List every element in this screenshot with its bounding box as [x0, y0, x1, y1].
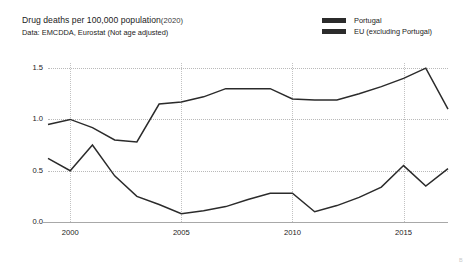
legend-item: Portugal: [322, 15, 432, 26]
x-tick-label: 2005: [151, 228, 211, 237]
y-tick-label: 0.5: [3, 166, 43, 175]
x-axis-line: [43, 222, 448, 223]
legend-item-label: EU (excluding Portugal): [354, 27, 432, 36]
y-axis-ticks: 0.00.51.01.5: [0, 63, 43, 222]
plot-area: [48, 63, 448, 222]
x-tick-label: 2015: [374, 228, 434, 237]
chart-title-text: Drug deaths per 100,000 population: [22, 15, 161, 25]
chart-title-year: (2020): [161, 16, 183, 25]
x-axis-ticks: 2000200520102015: [48, 228, 448, 242]
x-tick-label: 2010: [262, 228, 322, 237]
chart-header: Drug deaths per 100,000 population(2020)…: [22, 14, 282, 38]
legend-item-label: Portugal: [354, 16, 382, 25]
line-swatch-icon: [322, 18, 346, 23]
page-title: Drug deaths per 100,000 population(2020): [22, 14, 282, 27]
line-swatch-icon: [322, 29, 346, 34]
series-lines: [48, 63, 448, 222]
x-tick-label: 2000: [40, 228, 100, 237]
y-tick-label: 1.5: [3, 63, 43, 72]
legend-item: EU (excluding Portugal): [322, 26, 432, 37]
chart-figure: Drug deaths per 100,000 population(2020)…: [0, 0, 471, 272]
corner-watermark: B: [459, 257, 463, 263]
y-tick-label: 0.0: [3, 217, 43, 226]
chart-subtitle: Data: EMCDDA, Eurostat (Not age adjusted…: [22, 27, 282, 38]
series-line-eu: [48, 145, 448, 214]
chart-legend: PortugalEU (excluding Portugal): [322, 15, 432, 37]
series-line-portugal: [48, 68, 448, 142]
y-tick-label: 1.0: [3, 114, 43, 123]
